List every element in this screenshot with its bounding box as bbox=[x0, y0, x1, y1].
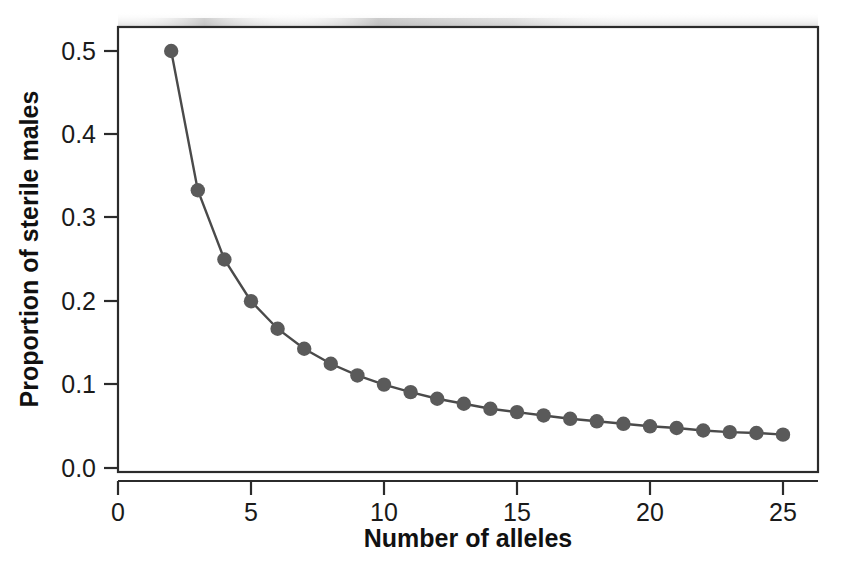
scan-shadow-artifact bbox=[118, 12, 818, 28]
data-series-group bbox=[164, 44, 790, 442]
data-point-marker bbox=[270, 322, 284, 336]
data-point-marker bbox=[616, 417, 630, 431]
y-tick-label-2: 0.2 bbox=[61, 287, 96, 315]
y-axis-tick-labels: 0.5 0.4 0.3 0.2 0.1 0.0 bbox=[61, 37, 96, 482]
data-point-marker bbox=[776, 427, 790, 441]
data-point-marker bbox=[217, 252, 231, 266]
x-tick-label-1: 5 bbox=[244, 498, 258, 526]
data-point-marker bbox=[483, 402, 497, 416]
data-point-marker bbox=[536, 408, 550, 422]
data-point-marker bbox=[297, 342, 311, 356]
x-tick-label-3: 15 bbox=[503, 498, 531, 526]
y-tick-label-1: 0.1 bbox=[61, 370, 96, 398]
x-axis-ticks bbox=[118, 481, 783, 495]
data-point-marker bbox=[669, 421, 683, 435]
x-tick-label-4: 20 bbox=[636, 498, 664, 526]
y-axis-ticks bbox=[104, 51, 118, 468]
data-point-marker bbox=[510, 405, 524, 419]
y-tick-label-0: 0.0 bbox=[61, 454, 96, 482]
data-point-marker bbox=[164, 44, 178, 58]
data-point-marker bbox=[696, 423, 710, 437]
data-point-marker bbox=[377, 377, 391, 391]
y-tick-label-5: 0.5 bbox=[61, 37, 96, 65]
data-point-marker bbox=[324, 357, 338, 371]
figure-container: 0.5 0.4 0.3 0.2 0.1 0.0 0 5 10 15 20 25 bbox=[0, 0, 842, 562]
data-point-marker bbox=[749, 426, 763, 440]
data-point-marker bbox=[457, 397, 471, 411]
x-axis-title: Number of alleles bbox=[364, 524, 572, 552]
series-line bbox=[171, 51, 783, 435]
chart-plot: 0.5 0.4 0.3 0.2 0.1 0.0 0 5 10 15 20 25 bbox=[0, 0, 842, 562]
series-markers bbox=[164, 44, 790, 442]
data-point-marker bbox=[350, 368, 364, 382]
x-tick-label-5: 25 bbox=[769, 498, 797, 526]
y-tick-label-3: 0.3 bbox=[61, 203, 96, 231]
data-point-marker bbox=[563, 412, 577, 426]
data-point-marker bbox=[430, 392, 444, 406]
y-tick-label-4: 0.4 bbox=[61, 120, 96, 148]
data-point-marker bbox=[643, 419, 657, 433]
data-point-marker bbox=[244, 294, 258, 308]
data-point-marker bbox=[590, 414, 604, 428]
x-axis-tick-labels: 0 5 10 15 20 25 bbox=[111, 498, 797, 526]
data-point-marker bbox=[191, 183, 205, 197]
data-point-marker bbox=[723, 425, 737, 439]
y-axis-title: Proportion of sterile males bbox=[15, 91, 43, 408]
data-point-marker bbox=[403, 385, 417, 399]
x-tick-label-0: 0 bbox=[111, 498, 125, 526]
x-tick-label-2: 10 bbox=[370, 498, 398, 526]
